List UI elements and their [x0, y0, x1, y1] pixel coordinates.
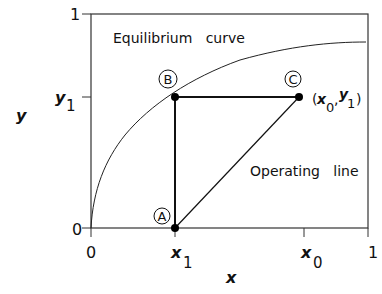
point-C-coordinate: ( x 0 , y 1 ) — [312, 86, 361, 115]
svg-text:A: A — [158, 209, 167, 224]
point-B-label: B — [159, 70, 177, 88]
plot-frame — [91, 14, 368, 228]
svg-text:C: C — [288, 72, 297, 87]
y-tick-label-0: 0 — [72, 220, 82, 239]
equilibrium-operating-diagram: A B C ( x 0 , y 1 ) Equilibrium curve Op… — [0, 0, 382, 294]
x-tick-label-x1: x 1 — [170, 243, 193, 272]
svg-text:,: , — [334, 91, 338, 107]
svg-text:0: 0 — [313, 254, 323, 272]
svg-text:1: 1 — [66, 97, 76, 115]
equilibrium-curve-label: Equilibrium curve — [113, 30, 245, 46]
svg-text:): ) — [356, 91, 361, 107]
point-C-marker — [295, 93, 303, 101]
point-C-label: C — [285, 71, 301, 87]
y-axis-label: y — [16, 106, 27, 125]
y-tick-label-y1: y 1 — [55, 88, 76, 115]
svg-text:1: 1 — [347, 96, 355, 111]
x-tick-label-1: 1 — [368, 243, 378, 262]
point-A-marker — [171, 224, 179, 232]
operating-line-label: Operating line — [250, 163, 359, 179]
svg-text:y: y — [55, 88, 66, 107]
y-tick-label-1: 1 — [70, 5, 80, 24]
x-tick-label-0: 0 — [86, 243, 96, 262]
x-tick-label-x0: x 0 — [300, 243, 323, 272]
svg-text:B: B — [164, 72, 173, 87]
point-B-marker — [171, 93, 179, 101]
svg-text:x: x — [300, 243, 312, 262]
x-axis-label: x — [225, 268, 237, 287]
point-A-label: A — [154, 208, 170, 224]
svg-text:x: x — [170, 243, 182, 262]
equilibrium-curve — [91, 42, 366, 228]
svg-text:1: 1 — [183, 254, 193, 272]
